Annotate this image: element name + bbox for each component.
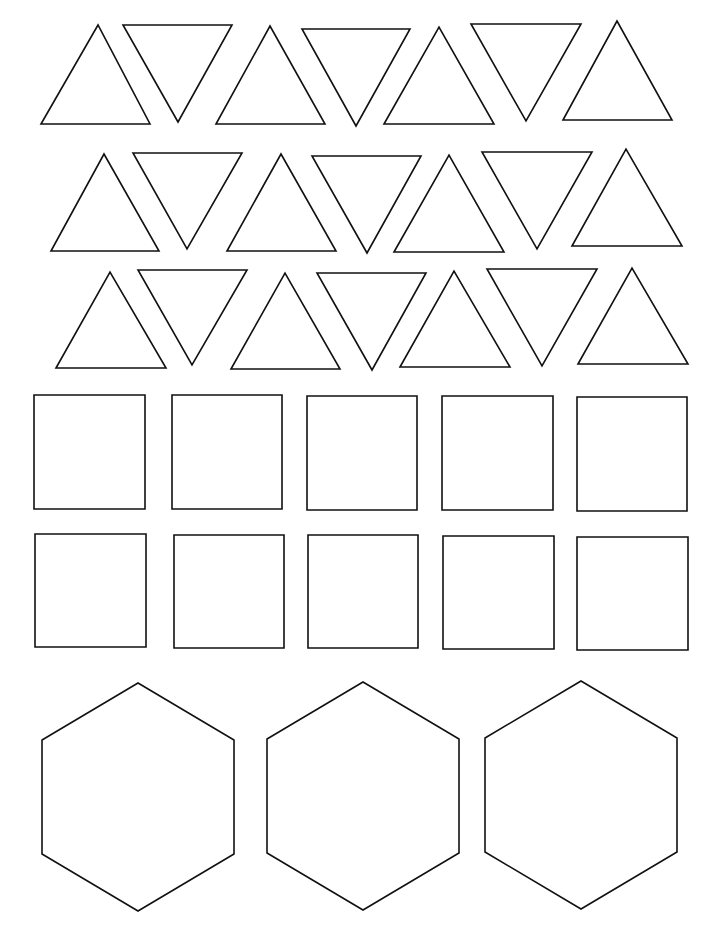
triangle-down <box>471 24 581 121</box>
square <box>307 396 417 510</box>
hexagon <box>267 682 459 910</box>
square-rows <box>34 395 688 650</box>
triangle-down <box>487 269 597 366</box>
triangle-rows <box>41 21 688 370</box>
square <box>172 395 282 509</box>
triangle-up <box>578 268 688 364</box>
triangle-up <box>563 21 672 120</box>
triangle-down <box>482 152 592 249</box>
shapes-worksheet <box>0 0 719 937</box>
hexagon <box>42 683 234 911</box>
triangle-up <box>231 273 340 369</box>
square <box>35 534 146 647</box>
square <box>577 397 687 511</box>
square <box>174 535 284 648</box>
square <box>34 395 145 509</box>
triangle-up <box>572 149 682 246</box>
square <box>442 396 553 510</box>
square <box>308 535 418 648</box>
square <box>443 536 554 649</box>
hexagon <box>485 681 677 909</box>
hexagon-row <box>42 681 677 911</box>
square <box>577 537 688 650</box>
